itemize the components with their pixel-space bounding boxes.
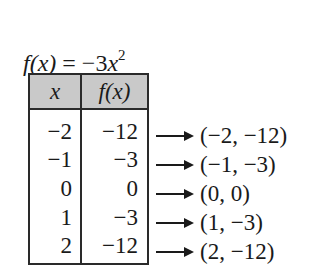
cell-x: −1	[29, 145, 81, 174]
point-item: (1, −3)	[152, 208, 287, 237]
point-item: (−2, −12)	[152, 121, 287, 150]
point-list: (−2, −12) (−1, −3) (0, 0) (1, −3) (2, −1…	[152, 121, 287, 266]
right-arrow-icon	[156, 247, 194, 257]
cell-fx: −3	[81, 145, 148, 174]
point-item: (2, −12)	[152, 237, 287, 266]
point-item: (−1, −3)	[152, 150, 287, 179]
point-label: (−2, −12)	[200, 122, 287, 149]
point-label: (2, −12)	[200, 238, 274, 265]
point-label: (0, 0)	[200, 180, 250, 207]
exponent: 2	[118, 47, 126, 63]
table-row: 1 −3	[29, 203, 148, 232]
value-table: x f(x) −2 −12 −1 −3 0 0 1 −3 2 −12	[28, 73, 149, 265]
cell-x: 1	[29, 203, 81, 232]
table-row: 0 0	[29, 174, 148, 203]
table-row: −1 −3	[29, 145, 148, 174]
cell-x: −2	[29, 109, 81, 145]
point-label: (−1, −3)	[200, 151, 276, 178]
header-x: x	[29, 74, 81, 109]
right-arrow-icon	[156, 131, 194, 141]
right-arrow-icon	[156, 189, 194, 199]
header-fx: f(x)	[81, 74, 148, 109]
cell-x: 0	[29, 174, 81, 203]
point-label: (1, −3)	[200, 209, 263, 236]
table-header-row: x f(x)	[29, 74, 148, 109]
right-arrow-icon	[156, 218, 194, 228]
table-row: −2 −12	[29, 109, 148, 145]
right-arrow-icon	[156, 160, 194, 170]
cell-fx: −12	[81, 109, 148, 145]
cell-x: 2	[29, 232, 81, 264]
table-row: 2 −12	[29, 232, 148, 264]
cell-fx: −3	[81, 203, 148, 232]
point-item: (0, 0)	[152, 179, 287, 208]
cell-fx: 0	[81, 174, 148, 203]
cell-fx: −12	[81, 232, 148, 264]
